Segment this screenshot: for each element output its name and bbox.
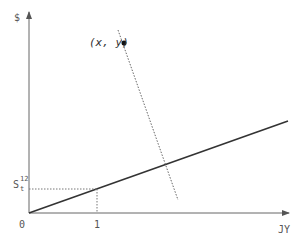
diagram-canvas — [0, 0, 303, 245]
x-tick-label: 1 — [94, 220, 100, 230]
point-label: (x, y) — [89, 37, 129, 48]
perpendicular-projection — [118, 30, 178, 200]
line-through-origin — [29, 121, 288, 213]
s-base: S — [13, 179, 19, 190]
s-tick-label: S12t — [13, 180, 19, 190]
s-superscript: 12 — [20, 176, 28, 183]
y-axis-label: $ — [14, 13, 20, 23]
x-axis-label: JY — [278, 225, 290, 235]
s-subscript: t — [20, 186, 24, 193]
origin-label: 0 — [19, 220, 25, 230]
